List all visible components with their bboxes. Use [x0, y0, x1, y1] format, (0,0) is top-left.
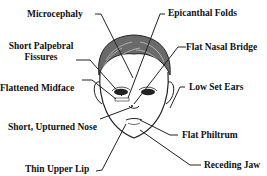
label-microcephaly: Microcephaly	[27, 9, 83, 20]
label-short-upturned-nose: Short, Upturned Nose	[8, 122, 97, 133]
label-short-palpebral-line1: Short Palpebral	[6, 41, 76, 52]
label-low-set-ears: Low Set Ears	[189, 82, 243, 93]
label-flat-philtrum: Flat Philtrum	[182, 130, 238, 141]
label-flattened-midface: Flattened Midface	[0, 83, 74, 94]
label-receding-jaw: Receding Jaw	[204, 160, 260, 171]
label-short-palpebral-line2: Fissures	[6, 52, 76, 63]
label-flat-nasal-bridge: Flat Nasal Bridge	[186, 42, 257, 53]
label-short-palpebral-fissures: Short Palpebral Fissures	[6, 41, 76, 63]
label-thin-upper-lip: Thin Upper Lip	[25, 164, 89, 175]
label-epicanthal-folds: Epicanthal Folds	[168, 8, 237, 19]
facial-features-diagram: Microcephaly Short Palpebral Fissures Fl…	[0, 0, 267, 176]
